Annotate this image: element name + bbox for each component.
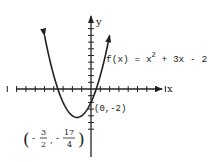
svg-text:-: - bbox=[56, 133, 59, 143]
x-axis-label: x bbox=[167, 83, 173, 94]
y-intercept-label: (0,-2) bbox=[94, 104, 126, 114]
svg-text:4: 4 bbox=[67, 140, 72, 149]
svg-text:2: 2 bbox=[41, 140, 46, 149]
function-label: f(x) = x2 + 3x - 2 bbox=[106, 51, 207, 65]
svg-text:17: 17 bbox=[64, 128, 74, 137]
y-axis-label: y bbox=[95, 16, 102, 27]
vertex-label: ( - 3 2 , - 17 4 ) bbox=[23, 128, 85, 149]
svg-text:(: ( bbox=[23, 129, 30, 149]
svg-text:-: - bbox=[32, 133, 35, 143]
svg-text:3: 3 bbox=[41, 128, 46, 137]
svg-text:,: , bbox=[50, 135, 53, 145]
parabola-chart: x y f(x) = x2 + 3x - 2 (0,-2) ( - 3 2 , … bbox=[0, 0, 213, 162]
svg-text:): ) bbox=[78, 129, 85, 149]
